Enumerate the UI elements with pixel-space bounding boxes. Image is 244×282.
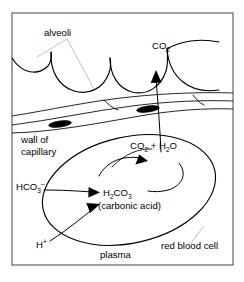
label-co2-plus-h2o: CO2 + H2O <box>130 140 177 153</box>
label-wall-of-capillary-line1: wall of <box>20 134 49 145</box>
diagram-root: alveoli CO2 wall of capillary HCO3– CO2 … <box>0 0 244 282</box>
label-carbonic-acid-name: (carbonic acid) <box>98 200 161 211</box>
label-red-blood-cell: red blood cell <box>161 240 218 251</box>
label-bicarbonate: HCO3– <box>16 180 45 193</box>
label-carbonic-acid-formula: H2CO3 <box>103 187 132 200</box>
label-alveoli: alveoli <box>44 27 71 38</box>
label-wall-of-capillary-line2: capillary <box>21 146 56 157</box>
label-plasma: plasma <box>100 249 132 260</box>
biology-diagram-svg: alveoli CO2 wall of capillary HCO3– CO2 … <box>0 0 244 282</box>
